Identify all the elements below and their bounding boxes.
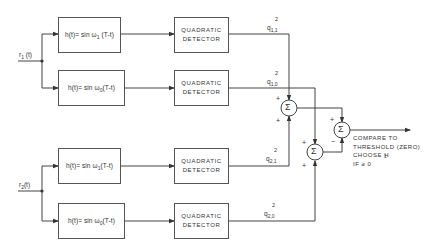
output-q11-label: q1,1 [267,24,278,33]
summer-2-bottom-sign: + [302,162,306,169]
output-q21-exponent: 2 [274,147,277,153]
decision-rule-subscript: 1 [384,154,387,159]
quadratic-detector-2: QUADRATICDETECTOR [174,70,229,106]
output-q11-exponent: 2 [275,16,278,22]
summer-1-sigma-icon: Σ [285,102,291,112]
summer-3-sigma-icon: Σ [338,124,344,134]
output-q10-label: q1,0 [267,78,278,87]
summer-1-bottom-sign: + [276,117,280,124]
decision-rule-note: COMPARE TO THRESHOLD (ZERO) CHOOSE H IF … [353,134,420,168]
output-q20-exponent: 2 [272,202,275,208]
quadratic-detector-4: QUADRATICDETECTOR [174,203,229,239]
quadratic-detector-1: QUADRATICDETECTOR [174,17,229,53]
output-q20-label: q2,0 [264,210,275,219]
summer-3-bottom-sign: − [331,138,335,145]
quadratic-detector-3: QUADRATICDETECTOR [174,148,229,184]
input-r1-label: r1 (t) [19,51,32,60]
output-q10-exponent: 2 [275,70,278,76]
summer-2-top-sign: + [302,139,306,146]
matched-filter-r1-w1: h(t)= sin ω1 (T-t) [58,17,121,53]
input-r2-label: r2(t) [19,181,30,190]
summer-1-top-sign: + [276,95,280,102]
matched-filter-r1-w0: h(t)= sin ω0(T-t) [58,70,125,106]
summer-2-sigma-icon: Σ [311,146,317,156]
matched-filter-r2-w0: h(t)= sin ω0(T-t) [58,203,125,239]
matched-filter-r2-w1: h(t)= sin ω1(T-t) [58,148,121,184]
output-q21-label: q2,1 [266,155,277,164]
summer-3-top-sign: + [330,116,334,123]
